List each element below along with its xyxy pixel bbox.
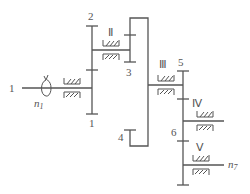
output-speed-label: n7	[228, 158, 239, 172]
input-shaft-label: 1	[9, 82, 15, 94]
gear-4-label: 4	[118, 131, 124, 143]
shaft-3	[148, 75, 183, 95]
gear-5-6	[177, 71, 189, 185]
gear-1-2	[86, 26, 98, 114]
shaft-2-label: Ⅱ	[108, 26, 113, 38]
shaft-5-label: Ⅴ	[196, 141, 204, 153]
gear-5-label: 5	[178, 56, 184, 68]
intermediate-frame	[124, 18, 148, 146]
gear-2-label: 2	[88, 10, 94, 22]
shaft-4-label: Ⅳ	[192, 97, 203, 109]
shaft-5	[183, 155, 224, 175]
input-speed-label: n1	[34, 97, 44, 111]
shaft-4	[183, 111, 224, 131]
shaft-3-label: Ⅲ	[159, 58, 167, 70]
gear-train-diagram: 1 n1 1 2 Ⅱ 3 4 Ⅲ 5 Ⅳ 6 Ⅴ n7	[0, 0, 250, 194]
gear-3-label: 3	[126, 66, 132, 78]
gear-3	[124, 35, 136, 62]
gear-1-label: 1	[89, 117, 95, 129]
shaft-1	[22, 75, 92, 98]
shaft-2	[92, 40, 130, 60]
gear-6-label: 6	[171, 126, 177, 138]
